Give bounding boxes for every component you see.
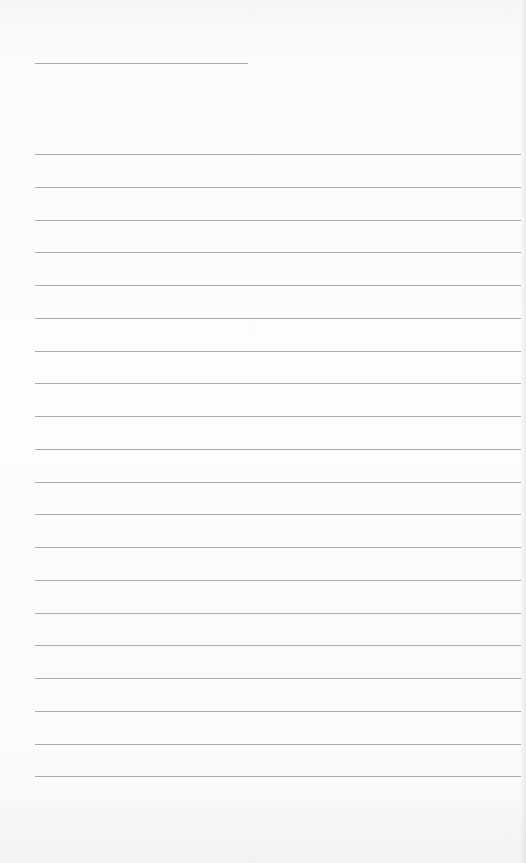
- ruled-line: [35, 547, 521, 548]
- lined-paper-page: [0, 0, 526, 863]
- ruled-line: [35, 744, 521, 745]
- ruled-line: [35, 580, 521, 581]
- ruled-line: [35, 285, 521, 286]
- ruled-line: [35, 514, 521, 515]
- ruled-line: [35, 383, 521, 384]
- ruled-line: [35, 351, 521, 352]
- ruled-line: [35, 645, 521, 646]
- header-rule: [35, 63, 248, 64]
- ruled-line: [35, 711, 521, 712]
- ruled-line: [35, 252, 521, 253]
- ruled-line: [35, 154, 521, 155]
- ruled-line: [35, 187, 521, 188]
- ruled-line: [35, 678, 521, 679]
- ruled-line: [35, 613, 521, 614]
- ruled-line: [35, 318, 521, 319]
- ruled-line: [35, 449, 521, 450]
- ruled-line: [35, 220, 521, 221]
- ruled-line: [35, 776, 521, 777]
- ruled-line: [35, 482, 521, 483]
- ruled-line: [35, 416, 521, 417]
